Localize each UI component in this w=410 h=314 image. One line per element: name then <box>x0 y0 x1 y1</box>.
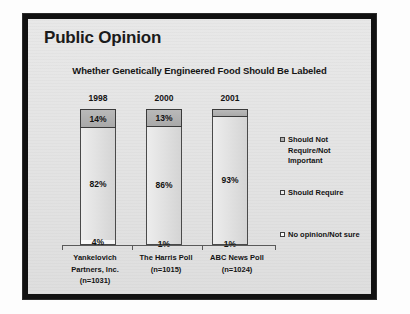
bar-segment-should-not-require[interactable]: 14% <box>80 109 116 128</box>
bar-segment-should-not-require[interactable]: 6% <box>212 109 248 117</box>
stacked-bar[interactable]: 6% 93% 1% <box>212 109 248 245</box>
chart-column-2001: 2001 6% 93% 1% <box>198 93 262 245</box>
chart-plot-area: 1998 14% 82% 4% 2000 <box>62 93 272 245</box>
bar-segment-should-not-require[interactable]: 13% <box>146 109 182 127</box>
category-sample-size: (n=1031) <box>58 275 132 287</box>
category-label-line: Partners, Inc. <box>58 264 132 276</box>
axis-tick <box>132 245 133 250</box>
page-title: Public Opinion <box>44 28 161 48</box>
column-year-label: 1998 <box>66 93 130 103</box>
bar-segment-label: 86% <box>147 180 181 190</box>
category-sample-size: (n=1024) <box>200 264 274 276</box>
legend-swatch-icon <box>280 190 285 195</box>
bar-segment-should-require[interactable]: 82% <box>80 128 116 240</box>
category-sample-size: (n=1015) <box>129 264 203 276</box>
category-label-line: Yankelovich <box>58 252 132 264</box>
bar-segment-should-require[interactable]: 93% <box>212 117 248 243</box>
legend-item-no-opinion[interactable]: No opinion/Not sure <box>280 230 360 241</box>
axis-tick <box>275 245 276 250</box>
slide-page: Public Opinion Whether Genetically Engin… <box>0 0 410 314</box>
axis-tick <box>202 245 203 250</box>
legend-label-line: No opinion/Not sure <box>288 230 360 241</box>
legend-label-line: Should Not <box>288 135 331 146</box>
legend-label: Should Not Require/Not Important <box>288 135 331 167</box>
bar-segment-label: 82% <box>81 179 115 189</box>
category-label-line: The Harris Poll <box>129 252 203 264</box>
legend-label-line: Require/Not <box>288 146 331 157</box>
legend-swatch-icon <box>280 137 285 142</box>
legend-label-line: Important <box>288 156 331 167</box>
legend-item-should-require[interactable]: Should Require <box>280 188 343 199</box>
column-year-label: 2001 <box>198 93 262 103</box>
chart-x-axis <box>62 245 276 250</box>
legend-swatch-icon <box>280 232 285 237</box>
legend-item-should-not-require[interactable]: Should Not Require/Not Important <box>280 135 331 167</box>
slide-frame: Public Opinion Whether Genetically Engin… <box>22 13 377 300</box>
legend-label: No opinion/Not sure <box>288 230 360 241</box>
axis-tick <box>62 245 63 250</box>
legend-label: Should Require <box>288 188 343 199</box>
category-label-abc-news: ABC News Poll (n=1024) <box>200 252 274 275</box>
category-label-yankelovich: Yankelovich Partners, Inc. (n=1031) <box>58 252 132 287</box>
bar-segment-label: 93% <box>213 175 247 185</box>
bar-segment-label: 13% <box>147 113 181 123</box>
stacked-bar[interactable]: 14% 82% 4% <box>80 109 116 245</box>
chart-column-1998: 1998 14% 82% 4% <box>66 93 130 245</box>
bar-segment-label: 14% <box>81 113 115 123</box>
chart-category-labels: Yankelovich Partners, Inc. (n=1031) The … <box>58 252 276 294</box>
bar-segment-should-require[interactable]: 86% <box>146 127 182 244</box>
legend-label-line: Should Require <box>288 188 343 199</box>
chart-title: Whether Genetically Engineered Food Shou… <box>28 65 371 76</box>
column-year-label: 2000 <box>132 93 196 103</box>
stacked-bar[interactable]: 13% 86% 1% <box>146 109 182 245</box>
slide-canvas: Public Opinion Whether Genetically Engin… <box>28 19 371 294</box>
chart-column-2000: 2000 13% 86% 1% <box>132 93 196 245</box>
category-label-line: ABC News Poll <box>200 252 274 264</box>
axis-line <box>62 245 276 246</box>
category-label-harris: The Harris Poll (n=1015) <box>129 252 203 275</box>
